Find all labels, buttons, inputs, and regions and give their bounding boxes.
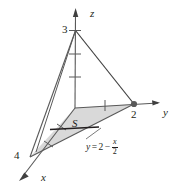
region-label-s: S	[72, 118, 78, 129]
z-axis	[73, 8, 78, 108]
y-axis-label: y	[163, 107, 168, 118]
equation-lhs: y	[86, 142, 90, 152]
tetrahedron-figure: z y x 3 2 4 S y = 2 − x 2	[0, 0, 181, 190]
figure-canvas	[0, 0, 181, 190]
fraction-denominator: 2	[112, 148, 118, 156]
equation-fraction: x 2	[112, 138, 118, 156]
point-marker-y2	[131, 101, 137, 107]
z-axis-label: z	[90, 8, 94, 19]
equation-constant: 2	[99, 142, 104, 152]
x-axis-label: x	[41, 172, 46, 183]
equation-minus-sign: −	[105, 142, 110, 152]
z-intercept-label: 3	[62, 24, 68, 35]
tetrahedron-edges	[30, 31, 134, 158]
equation-equals: =	[92, 142, 97, 152]
fraction-numerator: x	[112, 138, 118, 146]
y-intercept-label: 2	[131, 109, 137, 120]
x-intercept-label: 4	[14, 150, 20, 161]
boundary-equation-label: y = 2 − x 2	[86, 138, 118, 156]
